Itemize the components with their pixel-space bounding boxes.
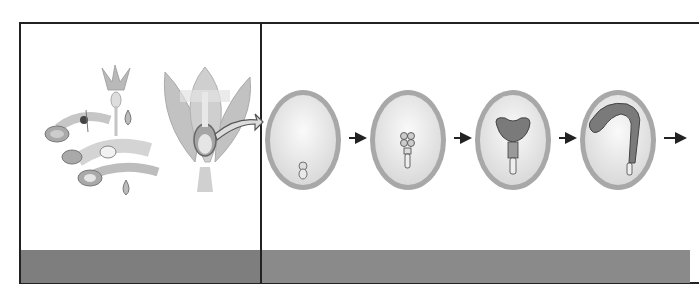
stage-proembryo [370,90,446,190]
life-cycle-illustration [40,60,160,200]
small-flower-icon [102,65,130,136]
cutaway-flower-illustration [155,62,265,192]
stage-zygote [265,90,341,190]
stage-heart [475,90,551,190]
left-caption-band [21,250,260,283]
stage-torpedo [580,90,656,190]
embryo-stages [265,88,690,200]
right-caption-band [262,250,690,283]
